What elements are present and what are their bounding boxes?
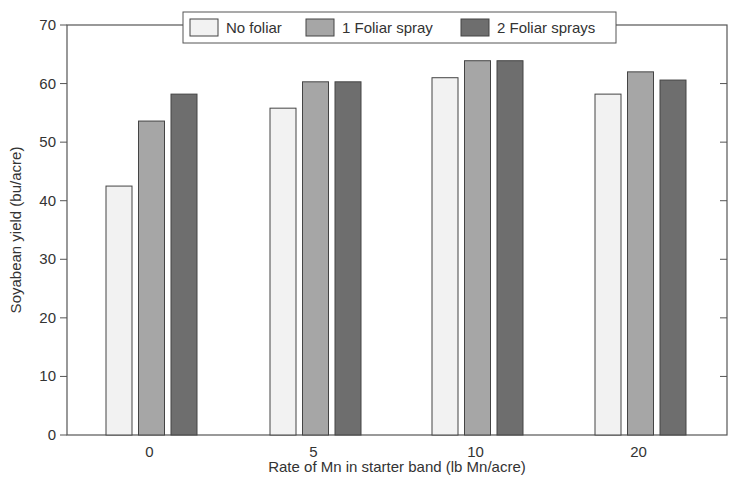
y-tick-label: 20 <box>39 309 56 326</box>
y-tick-label: 50 <box>39 133 56 150</box>
bar <box>335 82 361 435</box>
bar <box>303 82 329 435</box>
bar-group-0 <box>106 94 197 435</box>
legend-swatch <box>190 19 218 36</box>
legend: No foliar1 Foliar spray2 Foliar sprays <box>183 12 616 43</box>
y-tick-label: 40 <box>39 192 56 209</box>
bar <box>497 61 523 435</box>
y-axis-title: Soyabean yield (bu/acre) <box>7 147 24 314</box>
y-tick-label: 10 <box>39 367 56 384</box>
legend-swatch <box>306 19 334 36</box>
bar <box>595 94 621 435</box>
bar <box>660 80 686 435</box>
x-tick-label: 0 <box>145 443 153 460</box>
y-tick-label: 70 <box>39 16 56 33</box>
bar <box>171 94 197 435</box>
bar-group-20 <box>595 72 686 435</box>
x-axis-title: Rate of Mn in starter band (lb Mn/acre) <box>268 458 526 475</box>
legend-label: 2 Foliar sprays <box>497 19 595 36</box>
bar <box>628 72 654 435</box>
bar <box>432 78 458 435</box>
legend-label: 1 Foliar spray <box>342 19 433 36</box>
y-tick-label: 30 <box>39 250 56 267</box>
bar <box>139 121 165 435</box>
legend-swatch <box>461 19 489 36</box>
y-tick-label: 0 <box>48 426 56 443</box>
bar <box>465 61 491 435</box>
bar <box>270 108 296 435</box>
y-tick-label: 60 <box>39 75 56 92</box>
bar <box>106 186 132 435</box>
bar-group-5 <box>270 82 361 435</box>
bars <box>106 61 686 435</box>
bar-group-10 <box>432 61 523 435</box>
bar-chart: 010203040506070 051020 Rate of Mn in sta… <box>0 0 741 496</box>
x-tick-label: 20 <box>630 443 647 460</box>
legend-label: No foliar <box>226 19 282 36</box>
